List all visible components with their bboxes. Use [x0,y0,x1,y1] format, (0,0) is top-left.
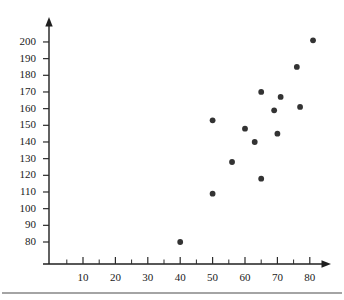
data-point [242,126,248,132]
x-tick-label: 30 [137,272,159,283]
y-tick-label: 110 [10,186,36,197]
y-tick-label: 90 [10,219,36,230]
data-point [297,104,303,110]
axes [43,17,331,268]
y-axis-ticks [43,42,49,242]
y-tick-label: 120 [10,169,36,180]
x-tick-label: 20 [104,272,126,283]
x-tick-label: 80 [299,272,321,283]
plot-canvas [0,0,344,300]
x-tick-label: 40 [169,272,191,283]
y-axis-arrow-icon [45,17,52,27]
x-axis-arrow-icon [322,260,332,267]
data-point [210,191,216,197]
x-tick-label: 10 [72,272,94,283]
data-point [210,117,216,123]
y-tick-label: 150 [10,119,36,130]
x-tick-label: 70 [266,272,288,283]
data-point [294,64,300,70]
data-point [310,37,316,43]
y-tick-label: 160 [10,103,36,114]
data-point [258,89,264,95]
y-tick-label: 100 [10,203,36,214]
x-tick-label: 60 [234,272,256,283]
x-axis-ticks [67,257,310,264]
y-tick-label: 80 [10,236,36,247]
y-tick-label: 130 [10,153,36,164]
data-point [275,131,281,137]
y-tick-label: 200 [10,36,36,47]
scatter-plot-figure: 8090100110120130140150160170180190200 10… [0,0,344,300]
data-points [177,37,316,245]
y-tick-label: 180 [10,69,36,80]
data-point [229,159,235,165]
data-point [278,94,284,100]
y-tick-label: 190 [10,53,36,64]
data-point [258,176,264,182]
x-tick-label: 50 [202,272,224,283]
data-point [177,239,183,245]
y-tick-label: 140 [10,136,36,147]
y-tick-label: 170 [10,86,36,97]
data-point [252,139,258,145]
data-point [271,107,277,113]
